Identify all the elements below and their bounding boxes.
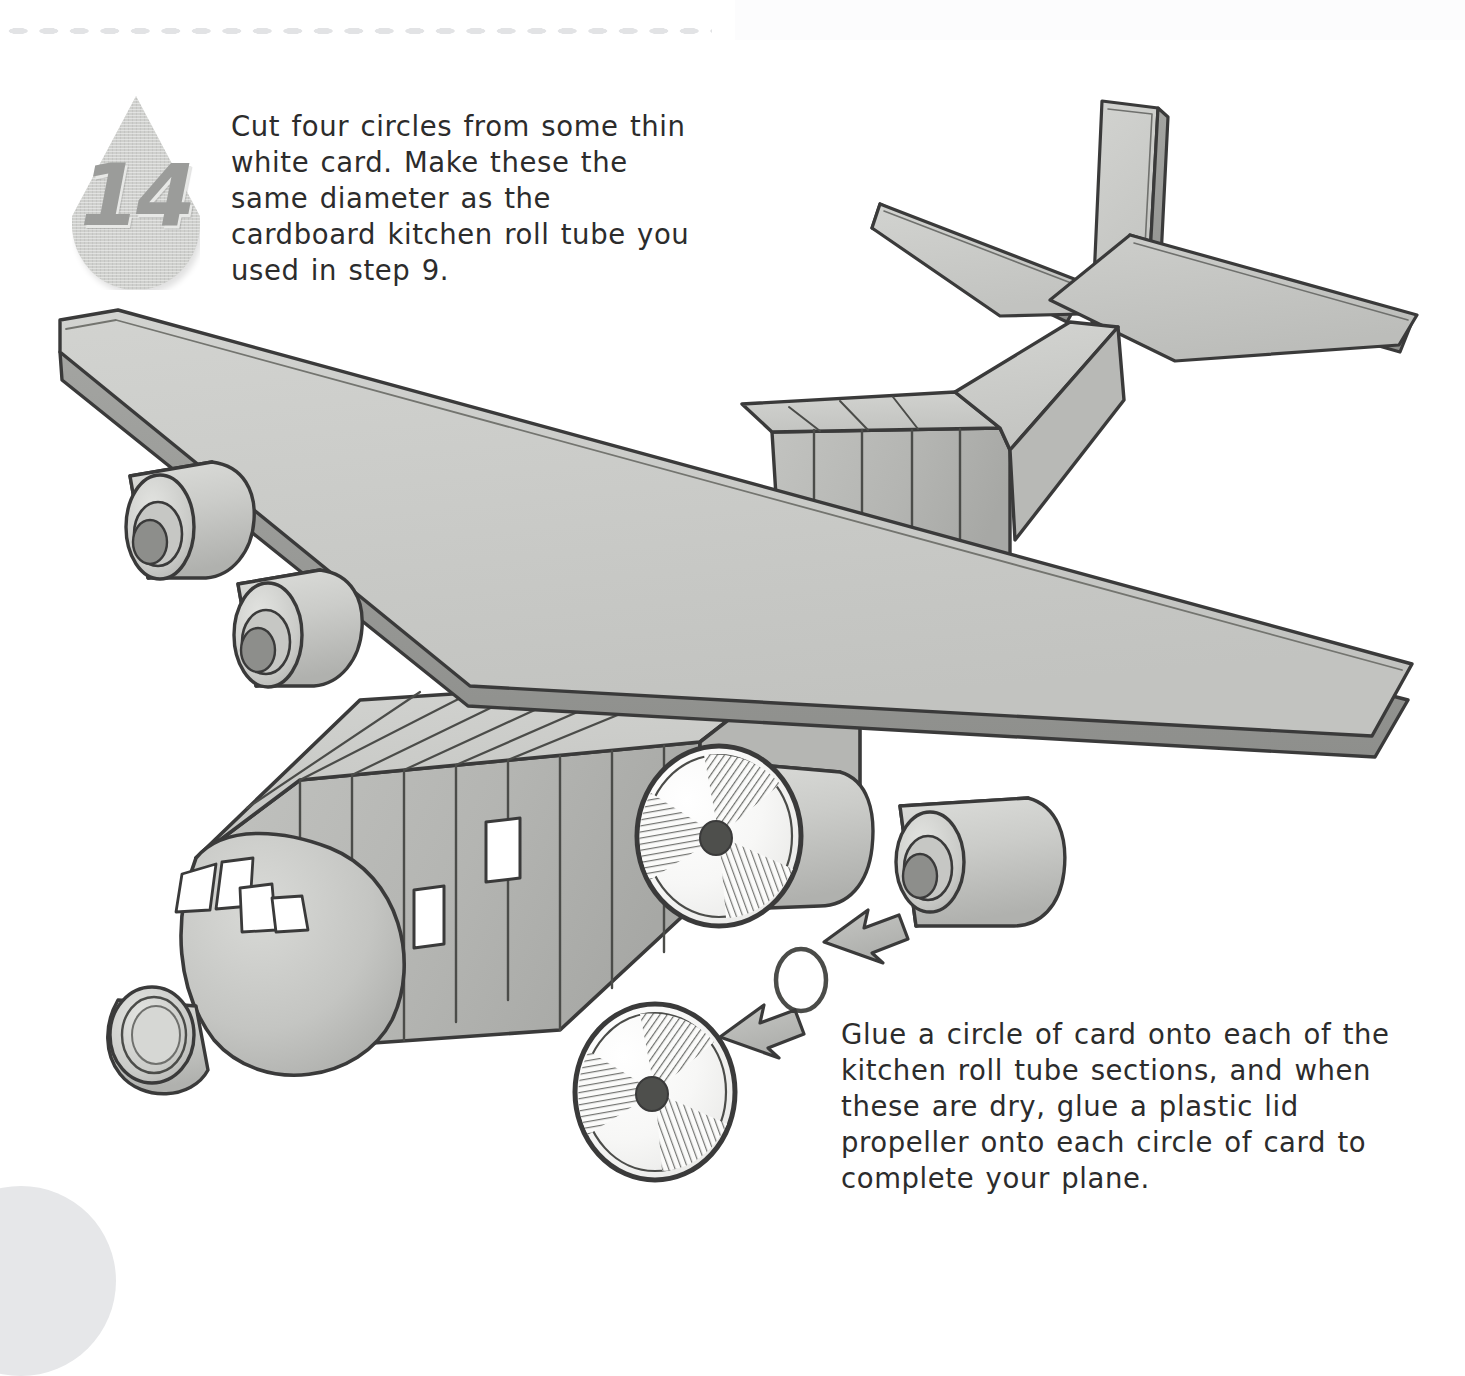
engine-2 [234, 570, 362, 687]
card-circle [776, 949, 826, 1011]
cockpit-window-3 [240, 884, 276, 932]
engine-4-hub [903, 854, 937, 898]
propeller-loose-hub [636, 1077, 668, 1111]
engine-3 [700, 760, 873, 910]
tailplane-left [872, 204, 1100, 322]
step-number-label: 14 [72, 152, 200, 238]
instruction-text-bottom: Glue a circle of card onto each of the k… [841, 1016, 1401, 1196]
fuselage-window-1 [414, 886, 444, 948]
propeller-loose [575, 1004, 735, 1180]
engine-1-hub [133, 520, 167, 564]
assembly-arrow-1 [720, 1005, 804, 1058]
cockpit-window-1 [176, 864, 216, 912]
tail-fin [1092, 101, 1168, 338]
rear-fuselage [742, 322, 1124, 600]
assembly-arrow-2 [824, 910, 908, 963]
engine-1 [126, 462, 254, 579]
engine-4 [896, 798, 1065, 926]
tailplane-right [1050, 235, 1417, 361]
propeller-fitted [637, 746, 801, 926]
cockpit-window-4 [272, 896, 308, 932]
engine-2-hub [241, 628, 275, 672]
fuselage-window-2 [486, 818, 520, 882]
cockpit-window-2 [216, 858, 253, 909]
dotted-rule-decoration [0, 26, 712, 36]
corner-blob-decoration [0, 1186, 116, 1376]
step-number-badge: 14 [72, 96, 200, 290]
forward-fuselage [196, 672, 860, 1046]
main-wing [60, 310, 1412, 757]
propeller-fitted-hub [700, 821, 732, 855]
nose-cone [108, 833, 404, 1093]
top-edge-tint [735, 0, 1465, 40]
instruction-text-top: Cut four circles from some thin white ca… [231, 108, 701, 288]
